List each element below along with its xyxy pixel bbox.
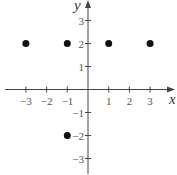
y-axis [85, 0, 91, 174]
y-tick-label: −2 [72, 130, 84, 142]
y-tick: 3 [79, 15, 92, 27]
y-tick: 2 [79, 38, 92, 50]
y-tick-label: −1 [72, 107, 84, 119]
y-tick-label: 3 [79, 15, 85, 27]
y-axis-arrow-icon [85, 0, 91, 8]
x-tick-label: −1 [61, 95, 73, 107]
x-tick-label: 3 [147, 95, 153, 107]
data-point [64, 132, 71, 139]
scatter-plot: −3−2−1123 321−1−2−3 x y [0, 0, 177, 175]
data-point [147, 40, 154, 47]
y-tick-label: −3 [72, 153, 84, 165]
x-tick-label: −3 [20, 95, 32, 107]
x-tick-label: −2 [41, 95, 53, 107]
data-point [22, 40, 29, 47]
x-tick-label: 2 [127, 95, 133, 107]
x-axis [5, 87, 175, 93]
data-point [105, 40, 112, 47]
y-tick-label: 1 [79, 61, 85, 73]
y-tick-label: 2 [79, 38, 85, 50]
y-axis-label: y [72, 0, 81, 13]
x-axis-label: x [168, 91, 176, 107]
x-tick-label: 1 [106, 95, 112, 107]
data-point [64, 40, 71, 47]
y-tick: 1 [79, 61, 92, 73]
